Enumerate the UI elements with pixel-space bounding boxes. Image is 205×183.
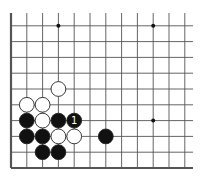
black-stone [51,145,66,160]
white-stone [51,129,66,144]
black-stone [19,129,34,144]
black-stone [35,129,50,144]
black-stone [35,145,50,160]
white-stone [35,113,50,128]
move-number-label: 1 [71,115,77,126]
white-stone [35,97,50,112]
white-stone [19,97,34,112]
star-point [56,24,60,28]
black-stone [19,113,34,128]
star-point [151,24,155,28]
white-stone [67,129,82,144]
star-point [151,119,155,123]
go-board: 1 [0,0,205,183]
black-stone [98,129,113,144]
white-stone [51,82,66,97]
black-stone [51,113,66,128]
